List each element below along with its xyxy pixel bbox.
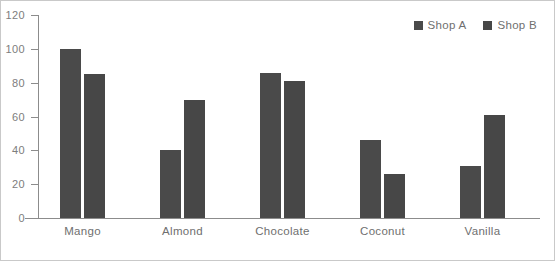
y-axis-label: 120 <box>0 9 25 21</box>
bar-cluster <box>260 15 305 218</box>
plot-area <box>38 15 538 218</box>
bar-shop-b[interactable] <box>284 81 305 218</box>
bar-shop-a[interactable] <box>260 73 281 218</box>
y-axis-tick <box>31 218 38 219</box>
bar-cluster <box>460 15 505 218</box>
y-axis-tick <box>31 150 38 151</box>
y-axis-label: 80 <box>0 77 25 89</box>
bar-cluster <box>160 15 205 218</box>
x-axis-label: Almond <box>162 225 203 237</box>
x-axis-label: Mango <box>64 225 101 237</box>
y-axis-label: 20 <box>0 178 25 190</box>
x-axis-line <box>25 218 540 219</box>
y-axis-tick <box>31 83 38 84</box>
bar-cluster <box>60 15 105 218</box>
y-axis-tick <box>31 49 38 50</box>
bar-shop-b[interactable] <box>384 174 405 218</box>
x-axis-label: Vanilla <box>465 225 501 237</box>
y-axis-tick <box>31 15 38 16</box>
bar-shop-a[interactable] <box>160 150 181 218</box>
x-axis-label: Chocolate <box>255 225 309 237</box>
y-axis-label: 0 <box>0 212 25 224</box>
y-axis-label: 100 <box>0 43 25 55</box>
y-axis-tick <box>31 117 38 118</box>
bar-shop-a[interactable] <box>60 49 81 218</box>
bar-shop-b[interactable] <box>184 100 205 218</box>
bar-cluster <box>360 15 405 218</box>
y-axis-label: 60 <box>0 111 25 123</box>
bar-shop-a[interactable] <box>360 140 381 218</box>
x-axis-label: Coconut <box>360 225 405 237</box>
bar-shop-b[interactable] <box>484 115 505 218</box>
y-axis-tick <box>31 184 38 185</box>
y-axis-label: 40 <box>0 144 25 156</box>
bar-shop-b[interactable] <box>84 74 105 218</box>
bar-shop-a[interactable] <box>460 166 481 218</box>
bar-chart: Shop A Shop B 020406080100120 MangoAlmon… <box>0 0 555 261</box>
